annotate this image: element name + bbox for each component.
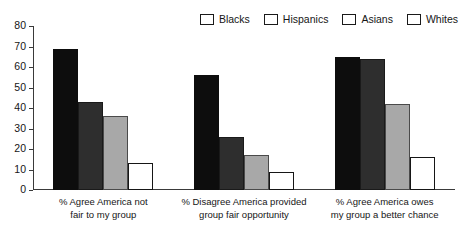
bar-blacks-group-1: [53, 49, 78, 190]
bars-layer: [33, 26, 455, 190]
x-axis-label-group-1: % Agree America notfair to my group: [33, 196, 174, 221]
bar-blacks-group-2: [194, 75, 219, 190]
y-axis-tick-label: 20: [14, 143, 26, 154]
x-axis-label-group-2: % Disagree America providedgroup fair op…: [174, 196, 315, 221]
y-axis-tick-label: 0: [20, 184, 26, 195]
bar-whites-group-2: [269, 172, 294, 190]
y-axis-tick-label: 10: [14, 164, 26, 175]
bar-whites-group-3: [410, 157, 435, 190]
x-axis-label-line: my group a better chance: [314, 209, 455, 222]
y-axis-tick-mark: [29, 190, 33, 191]
bar-chart: Blacks Hispanics Asians Whites 010203040…: [0, 0, 467, 233]
bar-group: [194, 26, 294, 190]
bar-whites-group-1: [128, 163, 153, 190]
x-axis-label-line: fair to my group: [33, 209, 174, 222]
x-axis-label-line: group fair opportunity: [174, 209, 315, 222]
bar-group: [53, 26, 153, 190]
y-axis-tick-label: 70: [14, 41, 26, 52]
bar-hispanics-group-2: [219, 137, 244, 190]
bar-group: [335, 26, 435, 190]
plot-area: 01020304050607080 % Agree America notfai…: [0, 0, 467, 233]
y-axis-tick-label: 50: [14, 82, 26, 93]
bar-asians-group-3: [385, 104, 410, 190]
bar-asians-group-1: [103, 116, 128, 190]
y-axis-tick-label: 30: [14, 123, 26, 134]
y-axis-tick-label: 60: [14, 61, 26, 72]
x-axis-label-line: % Agree America owes: [314, 196, 455, 209]
bar-blacks-group-3: [335, 57, 360, 190]
x-axis-label-line: % Agree America not: [33, 196, 174, 209]
y-axis-tick-label: 80: [14, 20, 26, 31]
x-axis-label-line: % Disagree America provided: [174, 196, 315, 209]
x-axis-label-group-3: % Agree America owesmy group a better ch…: [314, 196, 455, 221]
bar-asians-group-2: [244, 155, 269, 190]
y-axis-tick-label: 40: [14, 102, 26, 113]
bar-hispanics-group-1: [78, 102, 103, 190]
x-axis-category-labels: % Agree America notfair to my group% Dis…: [33, 196, 455, 230]
bar-hispanics-group-3: [360, 59, 385, 190]
